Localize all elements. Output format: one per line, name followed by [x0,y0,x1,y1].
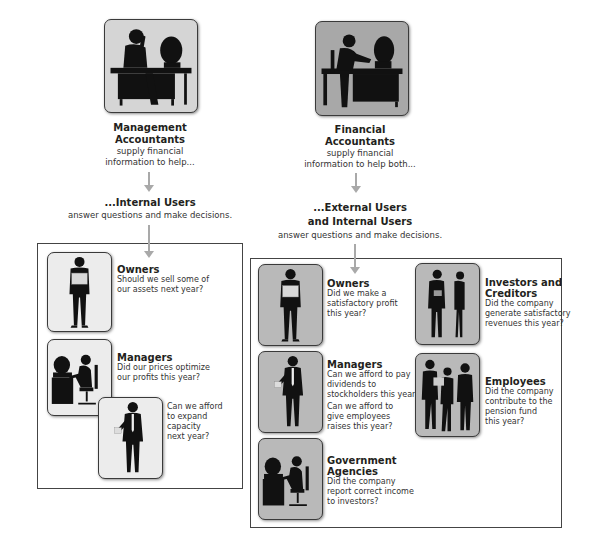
manager-standing-icon [98,397,163,479]
investors-creditors-group: Investors and Creditors Did the company … [485,277,575,329]
internal-managers-group: Managers Did our prices optimize our pro… [117,352,237,383]
desc-line: information to help both... [280,159,440,170]
flow-arrow [354,244,356,268]
title-line: Management [80,122,220,134]
question-line: satisfactory profit [327,299,417,309]
internal-users-title: ...Internal Users [60,197,240,209]
question-line: Did the company [327,477,422,487]
internal-managers-group-2: Can we afford to expand capacity next ye… [167,402,242,442]
question-line: generate satisfactory [485,309,575,319]
internal-users-desc: answer questions and make decisions. [60,210,240,221]
management-accountants-title: Management Accountants [80,122,220,146]
question-line: our assets next year? [117,285,237,295]
title-line: Accountants [80,134,220,146]
group-title: Owners [117,264,237,275]
question-line: dividends to [327,380,422,390]
question-line: our profits this year? [117,373,237,383]
question-line: Did we make a [327,289,417,299]
question-line: Did our prices optimize [117,363,237,373]
question-line: pension fund [485,407,575,417]
group-title: Managers [117,352,237,363]
question-line: next year? [167,432,242,442]
financial-accountant-icon [315,21,409,116]
external-internal-users-title: ...External Users and Internal Users [270,201,450,229]
management-accountants-desc: supply financial information to help... [80,146,220,168]
question-line: to expand capacity [167,412,242,432]
flow-arrow [148,172,150,186]
owner-icon [47,252,112,332]
title-line: Financial [290,124,430,136]
question-line: raises this year? [327,422,422,432]
question-line: to investors? [327,497,422,507]
group-title: Managers [327,359,422,370]
financial-accountants-title: Financial Accountants [290,124,430,148]
group-title: Owners [327,278,417,289]
group-title: Government [327,455,422,466]
desc-line: supply financial [80,146,220,157]
external-managers-group: Managers Can we afford to pay dividends … [327,359,422,432]
group-title: Employees [485,376,575,387]
title-line: Accountants [290,136,430,148]
question-line: Can we afford to [327,402,422,412]
owner-icon [258,264,323,346]
financial-accountants-desc: supply financial information to help bot… [280,148,440,170]
investors-creditors-icon [415,263,480,345]
question-line: stockholders this year? [327,390,422,400]
flow-arrow [355,173,357,187]
external-users-desc: answer questions and make decisions. [265,230,455,241]
question-line: Did the company [485,299,575,309]
employees-icon [415,353,480,437]
question-line: Can we afford to pay [327,370,422,380]
manager-icon [258,351,323,433]
external-owners-group: Owners Did we make a satisfactory profit… [327,278,417,319]
question-line: revenues this year? [485,319,575,329]
desc-line: information to help... [80,157,220,168]
employees-group: Employees Did the company contribute to … [485,376,575,427]
desc-line: supply financial [280,148,440,159]
question-line: this year? [485,417,575,427]
question-line: report correct income [327,487,422,497]
group-title: Agencies [327,466,422,477]
question-line: Should we sell some of [117,275,237,285]
question-line: give employees [327,412,422,422]
flow-arrow [148,240,150,252]
question-line: this year? [327,309,417,319]
government-agency-icon [258,438,323,520]
question-line: contribute to the [485,397,575,407]
internal-owners-group: Owners Should we sell some of our assets… [117,264,237,295]
government-agencies-group: Government Agencies Did the company repo… [327,455,422,507]
title-line: and Internal Users [270,215,450,229]
group-title: Investors and [485,277,575,288]
group-title: Creditors [485,288,575,299]
management-accountant-icon [104,19,198,113]
question-line: Can we afford [167,402,242,412]
title-line: ...External Users [270,201,450,215]
question-line: Did the company [485,387,575,397]
